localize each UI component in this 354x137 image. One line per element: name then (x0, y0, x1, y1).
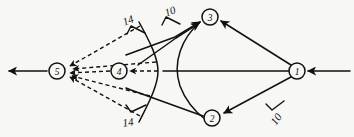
edge-node1-to-node2 (224, 77, 291, 113)
node-2-label: 2 (210, 114, 215, 124)
node-4-label: 4 (117, 67, 122, 77)
diagram-canvas: 1 2 3 4 5 14 10 14 10 (0, 0, 354, 137)
network-diagram: 1 2 3 4 5 14 10 14 10 (0, 0, 354, 137)
tick-10-top (162, 17, 180, 25)
edge-label-10-bottom: 10 (268, 111, 284, 127)
edge-node2-to-node5 (126, 88, 203, 116)
edge-label-10-top: 10 (163, 3, 178, 18)
edge-label-14-bottom: 14 (122, 115, 135, 128)
edge-node1-to-node3 (221, 21, 291, 65)
edge-dashed-node4-to-node5 (70, 71, 110, 73)
node-1-label: 1 (295, 67, 300, 77)
edge-lower-to-node3 (138, 23, 199, 65)
edge-label-14-top: 14 (121, 12, 136, 27)
node-3-label: 3 (207, 13, 213, 23)
tick-10-bottom (266, 101, 284, 110)
edge-dashed-top-to-node5 (70, 26, 140, 66)
tick-14-bottom (126, 105, 146, 112)
node-5-label: 5 (55, 67, 60, 77)
